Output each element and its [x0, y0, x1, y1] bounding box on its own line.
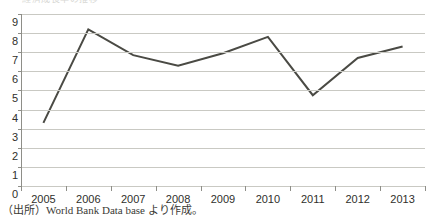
gridline [21, 129, 425, 130]
gridline [21, 110, 425, 111]
source-caption: （出所）World Bank Data base より作成。 [2, 204, 203, 217]
y-axis-tick-mark [18, 186, 22, 187]
x-axis-tick-label: 2009 [201, 193, 246, 205]
line-chart: 0123456789 20052006200720082009201020112… [0, 8, 433, 196]
y-axis-tick-label: 9 [1, 17, 18, 28]
y-axis-tick-mark [18, 129, 22, 130]
y-axis-labels: 0123456789 [0, 16, 18, 204]
clipped-title-fragment: 経済成長率の推移 [0, 0, 433, 7]
clipped-title-text: 経済成長率の推移 [0, 0, 433, 4]
x-axis-tick-mark [290, 186, 291, 191]
y-axis-tick-mark [18, 52, 22, 53]
y-axis-tick-label: 2 [1, 151, 18, 162]
y-axis-tick-label: 1 [1, 170, 18, 181]
x-axis-tick-label: 2011 [290, 193, 335, 205]
gridline [21, 90, 425, 91]
x-axis-tick-mark [380, 186, 381, 191]
x-axis-tick-mark [425, 186, 426, 191]
y-axis-tick-mark [18, 14, 22, 15]
figure-container: 経済成長率の推移 0123456789 20052006200720082009… [0, 0, 433, 222]
gridline [21, 71, 425, 72]
y-axis-tick-mark [18, 167, 22, 168]
y-axis-tick-label: 0 [1, 189, 18, 200]
gridline [21, 52, 425, 53]
x-axis-tick-mark [335, 186, 336, 191]
y-axis-tick-label: 8 [1, 36, 18, 47]
x-axis-tick-mark [156, 186, 157, 191]
x-axis-tick-mark [201, 186, 202, 191]
y-axis-tick-label: 6 [1, 74, 18, 85]
y-axis-tick-label: 3 [1, 132, 18, 143]
x-axis-tick-label: 2012 [335, 193, 380, 205]
y-axis-tick-mark [18, 90, 22, 91]
y-axis-tick-mark [18, 71, 22, 72]
x-axis-tick-mark [66, 186, 67, 191]
y-axis-tick-mark [18, 33, 22, 34]
y-axis-tick-mark [18, 110, 22, 111]
gridline [21, 14, 425, 15]
gridline [21, 167, 425, 168]
gridline [21, 186, 425, 187]
x-axis-tick-label: 2010 [245, 193, 290, 205]
y-axis-tick-label: 4 [1, 113, 18, 124]
y-axis-tick-label: 7 [1, 55, 18, 66]
x-axis-tick-mark [111, 186, 112, 191]
x-axis-tick-label: 2013 [380, 193, 425, 205]
data-series-line [21, 14, 425, 186]
gridline [21, 148, 425, 149]
gridline [21, 33, 425, 34]
y-axis-tick-mark [18, 148, 22, 149]
y-axis-tick-label: 5 [1, 93, 18, 104]
x-axis-tick-mark [245, 186, 246, 191]
plot-area [21, 14, 425, 186]
